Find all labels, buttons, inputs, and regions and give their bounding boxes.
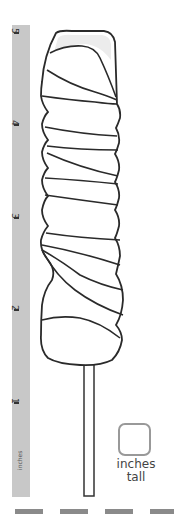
answer-input-box[interactable] — [118, 423, 151, 456]
lollipop-stick — [84, 362, 94, 496]
answer-caption: inches tall — [108, 458, 164, 484]
dash — [150, 509, 174, 514]
dash — [15, 509, 43, 514]
dash — [105, 509, 133, 514]
footer-dashes — [0, 509, 174, 515]
answer-caption-tall: tall — [108, 471, 164, 484]
dash — [60, 509, 88, 514]
